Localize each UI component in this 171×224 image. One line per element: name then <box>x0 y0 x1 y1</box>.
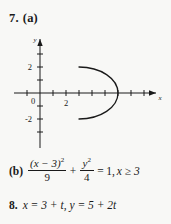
item-7-number: 7. <box>9 11 19 25</box>
fraction-two: y2 4 <box>80 158 94 183</box>
fraction-one: (x − 3)2 9 <box>28 158 66 183</box>
equation-constraint: x ≥ 3 <box>117 165 140 177</box>
item-7-part-a-heading: 7.(a) <box>9 11 38 26</box>
y-axis-label: y <box>32 36 37 44</box>
x-axis-arrow-icon <box>149 90 156 95</box>
item-8-number: 8. <box>9 199 18 211</box>
item-8-equation: x = 3 + t, y = 5 + 2t <box>23 199 117 211</box>
coordinate-graph: 0 2 2 -2 y x <box>0 30 171 155</box>
fraction-one-denominator: 9 <box>42 172 52 184</box>
origin-tick-label: 0 <box>31 96 35 106</box>
item-7-part-b-equation: (b) (x − 3)2 9 + y2 4 = 1, x ≥ 3 <box>9 158 171 183</box>
item-7-part-a-label: (a) <box>23 11 38 25</box>
fraction-one-numerator-text: (x − 3) <box>30 157 61 169</box>
equation-right-side: 1, <box>106 165 115 177</box>
y-tick-label-2: 2 <box>28 62 32 72</box>
fraction-two-numerator-exponent: 2 <box>87 156 91 164</box>
y-axis-arrow-icon <box>37 39 42 46</box>
item-7-part-b-label: (b) <box>9 164 23 177</box>
graph-svg: 0 2 2 -2 y x <box>0 30 171 155</box>
x-axis-label: x <box>157 94 162 102</box>
x-tick-label-2: 2 <box>64 98 68 108</box>
fraction-two-numerator: y2 <box>81 158 93 170</box>
answer-snippet-page: 7.(a) <box>0 0 171 224</box>
y-tick-label-neg2: -2 <box>25 114 32 124</box>
fraction-two-denominator: 4 <box>82 172 92 184</box>
equals-operator: = <box>97 165 104 177</box>
fraction-one-numerator: (x − 3)2 <box>28 158 66 170</box>
item-8-line: 8.x = 3 + t, y = 5 + 2t <box>9 199 116 211</box>
fraction-one-numerator-exponent: 2 <box>61 156 65 164</box>
plus-operator: + <box>70 165 77 177</box>
